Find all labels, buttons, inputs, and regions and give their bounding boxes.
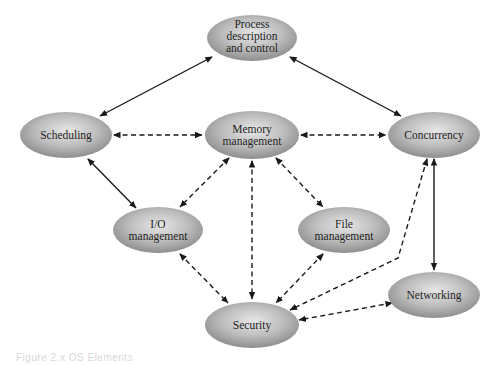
node-concurrency: Concurrency (388, 112, 480, 158)
node-label: File (335, 218, 353, 230)
edge-process-concurrency (290, 57, 401, 116)
edge-io-security (180, 254, 228, 303)
node-label: management (223, 135, 283, 148)
edge-networking-security (299, 303, 392, 320)
node-file: File management (298, 207, 390, 253)
node-networking: Networking (388, 272, 480, 318)
node-memory: Memory management (205, 111, 299, 159)
edge-scheduling-io (88, 159, 136, 208)
node-scheduling: Scheduling (20, 112, 112, 158)
node-label: Networking (407, 289, 462, 302)
figure-caption: Figure 2.x OS Elements (16, 352, 133, 363)
node-label: Concurrency (404, 129, 464, 142)
edge-memory-io (180, 158, 229, 207)
node-label: management (315, 230, 375, 243)
edge-memory-file (276, 158, 323, 207)
edges (88, 57, 434, 320)
node-label: Process (234, 18, 270, 30)
edge-file-security (276, 254, 323, 303)
node-label: management (129, 230, 189, 243)
node-label: and control (226, 42, 278, 54)
edge-process-scheduling (100, 57, 212, 116)
node-process: Process description and control (207, 15, 297, 61)
node-security: Security (205, 302, 299, 348)
node-label: Security (233, 319, 272, 332)
os-elements-diagram: Process description and control Scheduli… (0, 0, 500, 365)
node-label: I/O (150, 218, 165, 230)
node-label: Scheduling (40, 129, 92, 142)
node-io: I/O management (113, 207, 203, 253)
